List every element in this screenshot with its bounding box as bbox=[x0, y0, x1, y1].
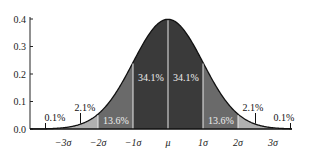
percent-label: 2.1% bbox=[243, 102, 264, 113]
percent-label: 13.6% bbox=[103, 115, 129, 126]
y-tick-label: 0.4 bbox=[14, 14, 27, 25]
y-tick-label: 0.0 bbox=[14, 124, 27, 135]
percent-label: 2.1% bbox=[75, 102, 96, 113]
x-tick-label: −3σ bbox=[55, 137, 73, 148]
x-tick-label: 2σ bbox=[233, 137, 244, 148]
y-axis: 0.00.10.20.30.4 bbox=[14, 14, 34, 135]
percent-label: 13.6% bbox=[208, 115, 234, 126]
y-tick-label: 0.1 bbox=[14, 96, 27, 107]
percent-label: 0.1% bbox=[274, 112, 295, 123]
x-axis: −3σ−2σ−1σμ1σ2σ3σ bbox=[30, 129, 292, 148]
percent-label: 34.1% bbox=[173, 72, 199, 83]
x-tick-label: 3σ bbox=[267, 137, 279, 148]
percent-label: 34.1% bbox=[138, 72, 164, 83]
percent-label: 0.1% bbox=[45, 112, 66, 123]
x-tick-label: μ bbox=[164, 137, 170, 148]
y-tick-label: 0.2 bbox=[14, 69, 27, 80]
x-tick-label: 1σ bbox=[198, 137, 209, 148]
normal-distribution-chart: 0.00.10.20.30.4 −3σ−2σ−1σμ1σ2σ3σ 0.1%2.1… bbox=[0, 0, 319, 156]
x-tick-label: −1σ bbox=[125, 137, 143, 148]
x-tick-label: −2σ bbox=[90, 137, 108, 148]
y-tick-label: 0.3 bbox=[14, 41, 27, 52]
